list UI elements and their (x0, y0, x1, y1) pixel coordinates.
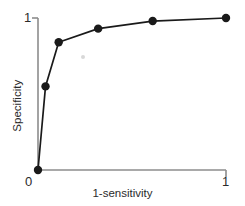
image-artifact-speck (81, 55, 85, 59)
roc-plot-area (0, 0, 245, 206)
roc-curve-line (38, 18, 226, 170)
y-axis-tick-label-1: 1 (24, 11, 31, 24)
roc-data-point (148, 17, 156, 25)
x-axis-tick-label-0: 0 (25, 175, 32, 188)
roc-data-point (222, 14, 230, 22)
roc-data-point (34, 166, 42, 174)
x-axis-title: 1-sensitivity (0, 188, 245, 200)
roc-data-point (94, 24, 102, 32)
y-axis-title: Specificity (12, 51, 24, 161)
x-axis-tick-label-1: 1 (222, 175, 229, 188)
roc-data-point (41, 82, 49, 90)
roc-chart: 1 0 1 1-sensitivity Specificity (0, 0, 245, 206)
data-series-group (34, 14, 230, 174)
roc-data-points (34, 14, 230, 174)
roc-data-point (54, 38, 62, 46)
